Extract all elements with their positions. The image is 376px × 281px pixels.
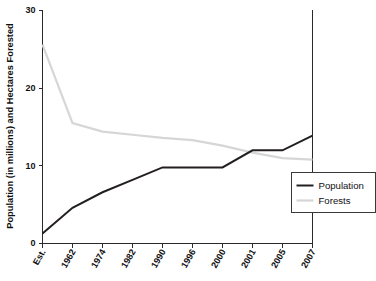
y-tick-label: 10 [25, 161, 35, 171]
x-tick-label: 1974 [89, 248, 108, 270]
x-tick-label: 2000 [209, 248, 228, 270]
chart-legend: PopulationForests [292, 173, 376, 213]
chart-container: 0102030 Est.1962197419821990199620002001… [0, 0, 376, 281]
x-tick-label: Est. [31, 248, 48, 267]
legend-label-population[interactable]: Population [319, 180, 364, 191]
x-tick-label: 2005 [269, 248, 288, 270]
x-tick-label: 2007 [299, 248, 318, 270]
y-axis-title: Population (in millions) and Hectares Fo… [5, 23, 15, 229]
legend-box [292, 173, 376, 213]
x-tick-label: 1990 [149, 248, 168, 270]
x-axis-tick-labels: Est.196219741982199019962000200120052007 [31, 248, 318, 270]
y-tick-label: 20 [25, 83, 35, 93]
legend-label-forests[interactable]: Forests [319, 195, 351, 206]
series-line-forests [43, 45, 313, 160]
series-line-population [43, 136, 313, 234]
y-tick-label: 30 [25, 5, 35, 15]
data-series-group [43, 45, 313, 234]
y-axis-tick-labels: 0102030 [25, 5, 35, 248]
plot-axes [39, 10, 313, 248]
x-tick-label: 1962 [59, 248, 78, 270]
line-chart: 0102030 Est.1962197419821990199620002001… [0, 0, 376, 281]
x-tick-label: 1996 [179, 248, 198, 270]
x-tick-label: 1982 [119, 248, 138, 270]
x-tick-label: 2001 [239, 248, 258, 270]
y-tick-label: 0 [30, 238, 35, 248]
